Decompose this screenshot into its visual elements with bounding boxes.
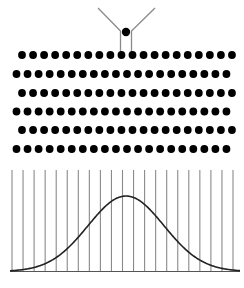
peg [35,145,43,153]
peg [13,108,21,116]
peg [129,89,137,97]
peg [29,126,37,134]
peg [195,51,203,59]
peg [123,145,131,153]
peg [68,70,76,78]
peg [123,108,131,116]
peg [107,51,115,59]
peg [84,51,92,59]
peg [145,70,153,78]
peg [189,70,197,78]
peg [223,108,231,116]
peg [195,126,203,134]
peg [40,51,48,59]
peg [24,108,32,116]
peg [212,108,220,116]
peg [228,126,236,134]
peg [57,108,65,116]
peg [62,89,70,97]
peg [95,51,103,59]
peg [156,145,164,153]
peg [217,89,225,97]
peg [84,126,92,134]
peg [95,126,103,134]
peg [189,108,197,116]
peg [173,51,181,59]
peg [68,145,76,153]
peg [18,51,26,59]
peg [13,70,21,78]
peg [112,70,120,78]
peg [217,51,225,59]
peg [90,108,98,116]
peg [145,145,153,153]
peg [217,126,225,134]
peg [95,89,103,97]
peg [184,126,192,134]
funnel-right-wall [132,8,156,52]
peg [68,108,76,116]
peg [212,70,220,78]
peg [101,70,109,78]
peg [79,70,87,78]
peg [79,145,87,153]
peg [24,70,32,78]
peg [129,126,137,134]
peg [162,126,170,134]
peg [57,70,65,78]
peg [200,108,208,116]
peg [107,126,115,134]
distribution-curve [10,196,240,271]
peg [206,126,214,134]
peg [140,126,148,134]
peg [90,145,98,153]
ball-circle [122,28,130,36]
peg [13,145,21,153]
peg [228,89,236,97]
peg [29,89,37,97]
peg [134,108,142,116]
peg [195,89,203,97]
peg [162,89,170,97]
peg [178,145,186,153]
peg [145,108,153,116]
peg [151,89,159,97]
peg [123,70,131,78]
peg [35,108,43,116]
peg [62,126,70,134]
peg [140,89,148,97]
peg [24,145,32,153]
peg [156,108,164,116]
peg [40,126,48,134]
funnel-left-wall [98,8,121,52]
peg [73,89,81,97]
peg [51,51,59,59]
peg [35,70,43,78]
peg [178,70,186,78]
bin-dividers [12,170,233,271]
peg [134,145,142,153]
peg [57,145,65,153]
peg [46,145,54,153]
peg [212,145,220,153]
peg [40,89,48,97]
peg-grid [13,51,236,153]
peg [223,145,231,153]
peg [162,51,170,59]
peg [206,51,214,59]
peg [101,145,109,153]
peg [151,51,159,59]
ball [122,28,130,36]
peg [79,108,87,116]
peg [73,126,81,134]
peg [167,145,175,153]
peg [46,70,54,78]
peg [46,108,54,116]
peg [200,70,208,78]
peg [129,51,137,59]
peg [118,51,126,59]
peg [178,108,186,116]
peg [167,108,175,116]
galton-board-diagram [0,0,244,288]
peg [51,89,59,97]
